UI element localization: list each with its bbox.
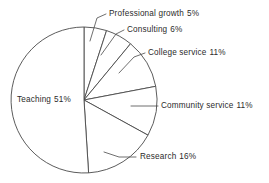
pie-chart: Professional growth5% Consulting6% Colle…	[0, 0, 269, 183]
pie-label-research-value: 16%	[179, 152, 196, 161]
pie-label-community-service-value: 11%	[236, 101, 252, 110]
pie-label-professional-growth-text: Professional growth	[109, 9, 184, 18]
pie-label-college-service-value: 11%	[209, 48, 225, 57]
pie-label-professional-growth: Professional growth5%	[109, 10, 199, 18]
pie-label-consulting-value: 6%	[170, 25, 182, 34]
pie-label-college-service-text: College service	[148, 48, 206, 57]
pie-label-research: Research16%	[140, 153, 196, 161]
pie-label-teaching: Teaching51%	[17, 96, 71, 104]
pie-label-professional-growth-value: 5%	[187, 9, 199, 18]
pie-label-consulting: Consulting6%	[127, 26, 183, 34]
pie-label-college-service: College service11%	[148, 49, 226, 57]
pie-label-community-service: Community service11%	[161, 102, 253, 110]
pie-label-community-service-text: Community service	[161, 101, 233, 110]
pie-label-teaching-value: 51%	[54, 95, 71, 104]
pie-label-research-text: Research	[140, 152, 176, 161]
pie-label-teaching-text: Teaching	[17, 95, 51, 104]
pie-label-consulting-text: Consulting	[127, 25, 167, 34]
